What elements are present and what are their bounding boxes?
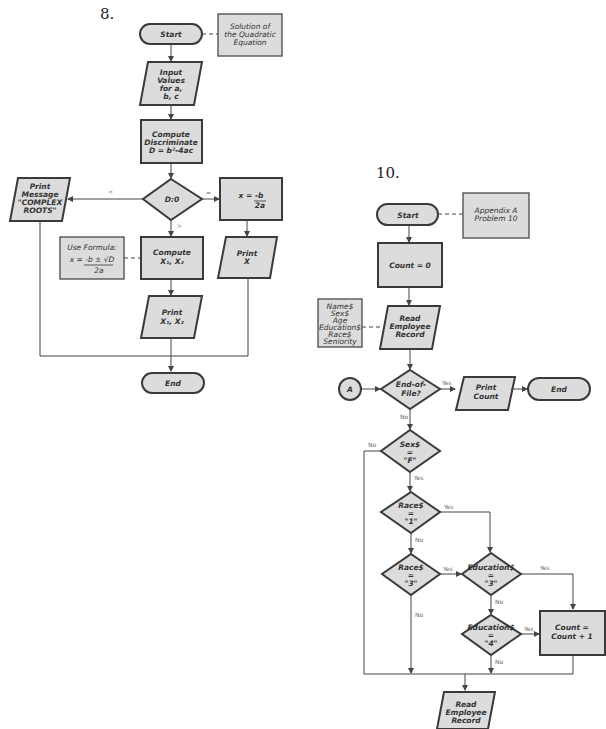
fig10-sex-line: "F" — [404, 456, 417, 465]
fig10-race3-no-label: No — [415, 611, 423, 618]
fig10-read-record-2: Read Employee Record — [437, 692, 495, 729]
fig8-formula-line: 2a — [94, 266, 104, 275]
fig10-annotation-box: Appendix A Problem 10 — [463, 193, 529, 238]
fig10-race3-decision: Race$ = "3" — [382, 554, 440, 595]
fig10-edu3-no-label: No — [495, 598, 503, 605]
fig10-sex-no-label: No — [368, 441, 376, 448]
fig10-end-terminal: End — [528, 378, 590, 400]
fig8-input-parallelogram: Input Values for a, b, c — [140, 62, 202, 105]
fig10-edu3-line: "3" — [484, 579, 497, 588]
fig10-edu3-decision: Education$ = "3" — [462, 553, 521, 595]
figure-10: 10. Start Appendix A Problem 10 Count = … — [318, 164, 605, 729]
fig10-print-count-line: Print — [476, 383, 497, 392]
fig10-eof-yes-label: Yes — [441, 379, 452, 386]
fig8-compute-discriminant: Compute Discriminate D = b²-4ac — [141, 120, 202, 163]
figure-10-number: 10. — [376, 164, 400, 182]
fig8-decision-label: D:0 — [165, 195, 179, 204]
fig10-eof-line: End-of- — [396, 380, 426, 389]
fig10-init-label: Count = 0 — [389, 261, 431, 270]
fig8-input-line: b, c — [163, 92, 179, 101]
fig8-start-terminal: Start — [140, 24, 202, 44]
fig10-start-label: Start — [397, 211, 419, 220]
fig10-connector-label: A — [346, 385, 353, 394]
fig10-end-label: End — [551, 385, 567, 394]
fig8-print-x: Print X — [218, 237, 277, 278]
fig10-fields-note: Name$ Sex$ Age Education$ Race$ Seniorit… — [318, 299, 362, 347]
fig8-compute-roots-line: X₁, X₂ — [159, 257, 184, 266]
fig8-decision-diamond: D:0 — [143, 179, 202, 220]
fig10-increment-count: Count = Count + 1 — [540, 611, 605, 655]
fig8-print-roots-line: Print — [162, 308, 183, 317]
fig10-edu4-yes-label: Yes — [523, 625, 534, 632]
fig8-formula-note: Use Formula: x = -b ± √D 2a — [60, 237, 124, 279]
fig10-increment-line: Count = — [555, 623, 589, 632]
figure-8-number: 8. — [100, 5, 114, 23]
fig8-start-label: Start — [160, 30, 182, 39]
fig10-edu3-yes-label: Yes — [539, 564, 550, 571]
fig8-formula-line: x = -b ± √D — [69, 255, 115, 264]
fig8-end-label: End — [165, 379, 181, 388]
fig8-print-roots: Print X₁, X₂ — [141, 296, 202, 338]
fig8-annotation-box: Solution of the Quadratic Equation — [218, 14, 282, 56]
fig10-init-count: Count = 0 — [378, 243, 442, 287]
fig10-increment-line: Count + 1 — [551, 632, 593, 641]
fig8-branch-gt-label: > — [177, 222, 182, 229]
fig10-race3-yes-label: Yes — [442, 565, 453, 572]
fig8-compute-roots-line: Compute — [153, 248, 191, 257]
fig10-sex-decision: Sex$ = "F" — [381, 430, 440, 472]
fig8-complex-line: ROOTS" — [24, 206, 57, 215]
fig8-formula-line: Use Formula: — [67, 243, 117, 252]
fig8-single-root-denominator: 2a — [255, 201, 265, 210]
fig10-read1-line: Record — [395, 330, 425, 339]
fig10-fields-line: Seniority — [323, 337, 357, 346]
fig10-eof-decision: End-of- File? — [381, 370, 440, 409]
fig10-race1-no-label: No — [415, 536, 423, 543]
fig10-edu4-decision: Education$ = "4" — [462, 615, 521, 655]
fig10-connector-a: A — [339, 378, 361, 400]
fig10-start-terminal: Start — [377, 204, 438, 225]
fig10-sex-yes-label: Yes — [413, 474, 424, 481]
fig8-print-complex: Print Message "COMPLEX ROOTS" — [10, 178, 70, 221]
fig10-eof-line: File? — [401, 389, 421, 398]
fig8-branch-eq-label: = — [206, 189, 211, 196]
fig10-race1-line: "1" — [404, 517, 417, 526]
flowcharts-canvas: 8. Start Solution of the Quadratic Equat… — [0, 0, 606, 729]
fig8-disc-line: D = b²-4ac — [149, 146, 194, 155]
fig10-race3-line: "3" — [404, 579, 417, 588]
fig8-branch-lt-label: < — [108, 188, 113, 195]
fig10-race1-decision: Race$ = "1" — [381, 492, 440, 533]
fig10-edu4-no-label: No — [495, 658, 503, 665]
fig8-end-terminal: End — [142, 373, 204, 393]
fig10-edu4-line: "4" — [484, 639, 497, 648]
fig10-print-count: Print Count — [456, 377, 515, 410]
fig10-annotation-line: Problem 10 — [475, 214, 518, 223]
fig10-eof-no-label: No — [400, 413, 408, 420]
fig8-compute-roots: Compute X₁, X₂ — [141, 237, 203, 279]
fig8-print-roots-line: X₁, X₂ — [159, 317, 184, 326]
fig8-single-root: x = -b 2a — [220, 178, 282, 220]
fig8-annotation-line: Equation — [233, 38, 266, 47]
fig10-print-count-line: Count — [474, 392, 499, 401]
fig10-read-record-1: Read Employee Record — [380, 306, 440, 349]
fig10-read2-line: Record — [451, 716, 481, 725]
fig8-single-root-numerator: x = -b — [238, 191, 264, 200]
fig8-print-x-line: X — [243, 257, 251, 266]
figure-8: 8. Start Solution of the Quadratic Equat… — [10, 5, 282, 393]
fig10-race1-yes-label: Yes — [443, 503, 454, 510]
